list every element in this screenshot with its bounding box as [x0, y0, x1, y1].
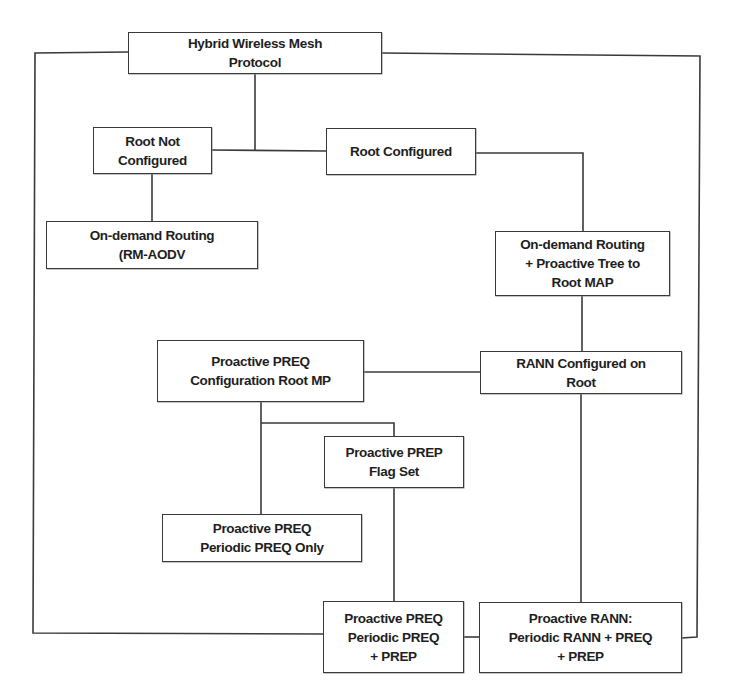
node-root-configured: Root Configured: [326, 128, 476, 175]
node-rann-configured: RANN Configured on Root: [480, 351, 682, 394]
node-proactive-prep-flag: Proactive PREP Flag Set: [324, 436, 464, 488]
node-on-demand-rm-aodv: On-demand Routing (RM-AODV: [46, 221, 258, 269]
connector-lines: [0, 0, 729, 698]
connector-junction-horizontal: [211, 150, 326, 151]
node-rann-periodic: Proactive RANN: Periodic RANN + PREQ + P…: [479, 602, 682, 673]
node-hwmp: Hybrid Wireless Mesh Protocol: [128, 32, 382, 74]
node-on-demand-proactive-tree: On-demand Routing + Proactive Tree to Ro…: [495, 231, 670, 296]
hwmp-flowchart: Hybrid Wireless Mesh Protocol Root Not C…: [0, 0, 729, 698]
node-preq-periodic-prep: Proactive PREQ Periodic PREQ + PREP: [323, 601, 464, 673]
node-preq-periodic-only: Proactive PREQ Periodic PREQ Only: [162, 514, 362, 562]
node-root-not-configured: Root Not Configured: [93, 127, 212, 174]
node-proactive-preq-config: Proactive PREQ Configuration Root MP: [157, 340, 364, 402]
connector-root-configured-to-proactive-tree: [475, 153, 583, 231]
connector-branch-to-prep-flag: [261, 423, 394, 436]
